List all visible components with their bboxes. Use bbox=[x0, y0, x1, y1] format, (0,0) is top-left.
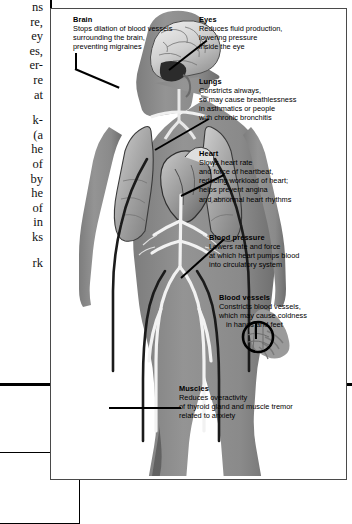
column-text-line: by bbox=[0, 172, 46, 187]
column-text-line: of bbox=[0, 201, 46, 216]
caption-line: inside the eye bbox=[199, 42, 282, 51]
caption-line: at which heart pumps blood bbox=[209, 251, 299, 260]
caption-line: and abnormal heart rhythms bbox=[199, 195, 291, 204]
label-muscles-heading: Muscles bbox=[179, 384, 293, 393]
caption-line: preventing migraines bbox=[73, 42, 172, 51]
caption-line: Stops dilation of blood vessels bbox=[73, 24, 172, 33]
column-paragraph-gap bbox=[0, 102, 46, 113]
label-blood-vessels-heading: Blood vessels bbox=[219, 293, 307, 302]
column-text-line: at bbox=[0, 88, 46, 103]
column-text-line: k- bbox=[0, 113, 46, 128]
label-blood-pressure: Blood pressure Lowers rate and forceat w… bbox=[209, 233, 299, 269]
label-eyes-heading: Eyes bbox=[199, 15, 282, 24]
caption-line: in hands and feet bbox=[219, 320, 307, 329]
leader-line-muscles bbox=[109, 407, 181, 409]
caption-line: reducing workload of heart; bbox=[199, 176, 291, 185]
column-text-line: er- bbox=[0, 58, 46, 73]
caption-line: into circulatory system bbox=[209, 260, 299, 269]
caption-line: Lowers rate and force bbox=[209, 242, 299, 251]
column-text-line: in bbox=[0, 215, 46, 230]
label-lungs-body: Constricts airways,so may cause breathle… bbox=[199, 86, 296, 122]
caption-line: of thyroid gland and muscle tremor bbox=[179, 402, 293, 411]
caption-line: which may cause coldness bbox=[219, 311, 307, 320]
column-text-line: ns bbox=[0, 0, 46, 15]
column-text-line: re, bbox=[0, 15, 46, 30]
label-blood-pressure-body: Lowers rate and forceat which heart pump… bbox=[209, 242, 299, 269]
caption-line: helps prevent angina bbox=[199, 185, 291, 194]
caption-line: Constricts airways, bbox=[199, 86, 296, 95]
label-blood-vessels: Blood vessels Constricts blood vessels,w… bbox=[219, 293, 307, 329]
label-heart-heading: Heart bbox=[199, 149, 291, 158]
caption-line: Constricts blood vessels, bbox=[219, 302, 307, 311]
label-blood-pressure-heading: Blood pressure bbox=[209, 233, 299, 242]
column-paragraph-gap bbox=[0, 245, 46, 256]
label-brain-heading: Brain bbox=[73, 15, 172, 24]
page-left-column-text: nsre,eyes,er-reatk-(aheofbyheofinksrk bbox=[0, 0, 46, 513]
column-text-line: of bbox=[0, 157, 46, 172]
label-eyes-body: Reduces fluid production,lowering pressu… bbox=[199, 24, 282, 51]
caption-line: related to anxiety bbox=[179, 411, 293, 420]
column-text-line: (a bbox=[0, 128, 46, 143]
caption-line: Reduces overactivity bbox=[179, 393, 293, 402]
caption-line: Slows heart rate bbox=[199, 158, 291, 167]
label-brain-body: Stops dilation of blood vesselssurroundi… bbox=[73, 24, 172, 51]
column-text-line: re bbox=[0, 73, 46, 88]
label-heart: Heart Slows heart rateand force of heart… bbox=[199, 149, 291, 204]
leader-line-brain-vertical bbox=[75, 53, 77, 69]
column-text-line: rk bbox=[0, 256, 46, 271]
label-eyes: Eyes Reduces fluid production,lowering p… bbox=[199, 15, 282, 51]
caption-line: surrounding the brain, bbox=[73, 33, 172, 42]
label-lungs-heading: Lungs bbox=[199, 77, 296, 86]
caption-line: Reduces fluid production, bbox=[199, 24, 282, 33]
caption-line: and force of heartbeat, bbox=[199, 167, 291, 176]
caption-line: with chronic bronchitis bbox=[199, 113, 296, 122]
label-heart-body: Slows heart rateand force of heartbeat,r… bbox=[199, 158, 291, 203]
caption-line: so may cause breathlessness bbox=[199, 95, 296, 104]
label-muscles-body: Reduces overactivityof thyroid gland and… bbox=[179, 393, 293, 420]
column-text-line: he bbox=[0, 186, 46, 201]
column-text-line: ks bbox=[0, 230, 46, 245]
label-blood-vessels-body: Constricts blood vessels,which may cause… bbox=[219, 302, 307, 329]
label-muscles: Muscles Reduces overactivityof thyroid g… bbox=[179, 384, 293, 420]
label-brain: Brain Stops dilation of blood vesselssur… bbox=[73, 15, 172, 51]
column-text-line: he bbox=[0, 142, 46, 157]
column-text-line: ey bbox=[0, 29, 46, 44]
label-lungs: Lungs Constricts airways,so may cause br… bbox=[199, 77, 296, 123]
caption-line: in asthmatics or people bbox=[199, 104, 296, 113]
column-text-line: es, bbox=[0, 44, 46, 59]
page-horizontal-rule-left bbox=[0, 383, 52, 386]
caption-line: lowering pressure bbox=[199, 33, 282, 42]
anatomy-figure: Brain Stops dilation of blood vesselssur… bbox=[50, 8, 347, 480]
